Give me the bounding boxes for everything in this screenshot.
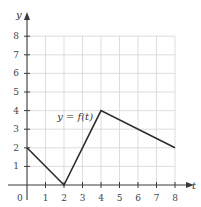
y-tick-label: 5 bbox=[13, 87, 19, 97]
x-tick-label: 8 bbox=[172, 193, 178, 203]
y-tick-label: 1 bbox=[13, 161, 19, 171]
y-tick-label: 4 bbox=[13, 106, 19, 116]
axes: t y 0 bbox=[8, 9, 197, 203]
y-axis-label: y bbox=[15, 9, 22, 20]
y-tick-label: 7 bbox=[13, 50, 19, 60]
x-tick-label: 1 bbox=[43, 193, 49, 203]
ticks: 1234567812345678 bbox=[13, 31, 178, 203]
y-axis-arrow-icon bbox=[24, 12, 30, 20]
x-tick-label: 5 bbox=[117, 193, 123, 203]
origin-label: 0 bbox=[17, 193, 23, 203]
y-tick-label: 2 bbox=[13, 143, 19, 153]
chart: t y 0 1234567812345678 y = f(t) bbox=[0, 0, 201, 207]
y-tick-label: 3 bbox=[13, 124, 19, 134]
x-tick-label: 6 bbox=[135, 193, 141, 203]
y-tick-label: 6 bbox=[13, 68, 19, 78]
x-tick-label: 2 bbox=[61, 193, 67, 203]
x-axis-label: t bbox=[192, 180, 197, 191]
x-tick-label: 4 bbox=[98, 193, 104, 203]
x-tick-label: 7 bbox=[154, 193, 160, 203]
x-tick-label: 3 bbox=[80, 193, 86, 203]
y-tick-label: 8 bbox=[13, 31, 19, 41]
function-label: y = f(t) bbox=[56, 111, 93, 122]
